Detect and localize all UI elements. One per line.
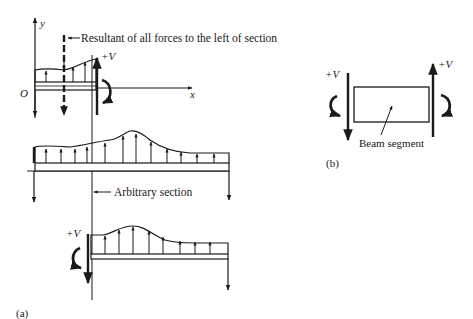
beam-right-portion (91, 254, 228, 259)
right-free-body (73, 226, 228, 290)
load-arrows-right (105, 227, 210, 254)
beam-segment-sign-convention (331, 64, 450, 140)
part-a-tag: (a) (16, 307, 29, 319)
beam-body (35, 163, 229, 171)
bending-moment-curl-bottom (73, 248, 81, 268)
distributed-load-curve-full (35, 131, 229, 163)
moment-curl-right-b (441, 95, 450, 116)
bending-moment-curl-top (102, 80, 110, 103)
load-arrows-full (46, 134, 214, 163)
y-axis-label: y (39, 17, 45, 29)
origin-label: O (20, 87, 28, 99)
beam-segment-box (354, 87, 429, 122)
distributed-load-curve (35, 59, 96, 82)
shear-force-diagram: y x O Resultant of all forces to the lef… (0, 0, 473, 319)
shear-label-right-b: +V (438, 58, 453, 70)
distributed-load-curve-right (91, 226, 228, 254)
arbitrary-section-label: Arbitrary section (114, 186, 192, 199)
moment-curl-left-b (331, 96, 340, 116)
shear-label-left-b: +V (325, 68, 340, 80)
shear-label-top: +V (101, 50, 116, 62)
beam-segment-label: Beam segment (359, 137, 424, 149)
x-axis-label: x (189, 88, 195, 100)
shear-label-bottom: +V (66, 227, 81, 239)
part-b-tag: (b) (326, 157, 339, 170)
segment-leader (381, 106, 392, 135)
resultant-label: Resultant of all forces to the left of s… (81, 32, 277, 44)
